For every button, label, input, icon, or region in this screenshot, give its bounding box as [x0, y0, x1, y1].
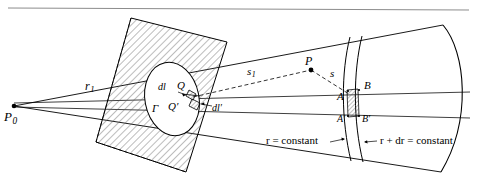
cone-ray-upper-mid	[14, 92, 470, 103]
label-corner-B: B	[364, 80, 371, 91]
label-shell-outer: r + dr = constant	[380, 135, 453, 146]
label-s1: s1	[247, 66, 256, 79]
label-field-point-P: P	[305, 55, 312, 67]
label-s: s	[330, 68, 334, 79]
field-point-dot	[309, 68, 314, 73]
label-corner-B-prime: B′	[362, 114, 370, 124]
label-source-point-sub: 0	[12, 116, 17, 126]
figure-root: P0 r1 dl Q Γ Q′ dl′ s1 P s A B A′ B′ r =…	[0, 0, 477, 187]
label-contour-gamma: Γ	[152, 103, 158, 114]
label-shell-inner: r = constant	[266, 135, 318, 146]
label-point-Q-prime: Q′	[168, 101, 178, 112]
label-point-Q: Q	[177, 80, 185, 91]
label-r1-text: r	[85, 79, 90, 93]
corner-A-prime-dot	[347, 115, 349, 117]
label-dl-prime: dl′	[212, 103, 222, 113]
label-s1-sub: 1	[251, 70, 255, 79]
label-corner-A: A	[337, 91, 344, 102]
label-r1-sub: 1	[90, 84, 95, 94]
label-r1: r1	[85, 80, 94, 94]
wavefront-patch	[347, 89, 359, 117]
label-source-point-text: P	[4, 109, 12, 124]
corner-B-dot	[358, 89, 360, 91]
source-point-dot	[12, 104, 17, 109]
diagram-canvas	[0, 0, 477, 187]
label-dl: dl	[158, 82, 166, 92]
label-source-point: P0	[4, 110, 17, 126]
corner-A-dot	[347, 90, 349, 92]
label-corner-A-prime: A′	[337, 114, 345, 124]
corner-B-prime-dot	[358, 115, 360, 117]
cone-end-cap	[441, 25, 462, 172]
top-rule	[8, 8, 469, 10]
